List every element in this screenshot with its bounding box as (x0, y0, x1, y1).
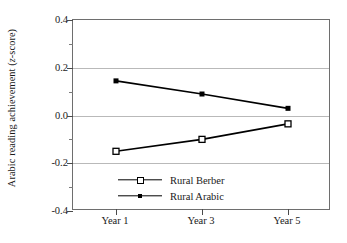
legend-label: Rural Berber (170, 175, 225, 186)
x-axis-tick-label: Year 5 (273, 215, 300, 226)
y-axis-title-text: Arabic reading achievement (z-score) (6, 28, 17, 186)
y-axis-tick-label: -0.4 (34, 205, 68, 216)
y-axis-tick-label: 0.4 (34, 14, 68, 25)
y-axis-title: Arabic reading achievement (z-score) (0, 0, 22, 215)
y-axis-title-part-1: Arabic reading achievement ( (6, 62, 17, 187)
y-axis-tick-label: 0.2 (34, 61, 68, 72)
y-axis-tick-label: -0.2 (34, 157, 68, 168)
legend-symbol (138, 194, 143, 199)
legend-item[interactable]: Rural Berber (118, 172, 268, 188)
x-axis-tick-label: Year 3 (187, 215, 214, 226)
legend: Rural BerberRural Arabic (118, 172, 268, 204)
y-axis-tick-labels: 0.40.20.0-0.2-0.4 (28, 0, 68, 243)
x-axis-tick-label: Year 1 (101, 215, 128, 226)
y-axis-title-italic-z: z (6, 58, 17, 62)
legend-marker-open-square (118, 173, 162, 187)
legend-label: Rural Arabic (170, 191, 224, 202)
y-axis-tick-label: 0.0 (34, 109, 68, 120)
legend-item[interactable]: Rural Arabic (118, 188, 268, 204)
chart-figure: Arabic reading achievement (z-score) 0.4… (0, 0, 347, 243)
y-axis-title-part-2: -score) (6, 28, 17, 57)
legend-marker-filled-square (118, 189, 162, 203)
legend-symbol (137, 177, 144, 184)
x-axis-tick-labels: Year 1Year 3Year 5 (72, 0, 330, 243)
